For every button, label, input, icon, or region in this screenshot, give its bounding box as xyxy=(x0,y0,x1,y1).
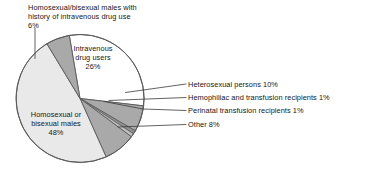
pie-chart-figure: Homosexual/bisexual males with history o… xyxy=(0,0,372,172)
pie-label-percent: 6% xyxy=(28,21,137,30)
pie-label-line-1: Intravenous xyxy=(55,44,131,53)
pie-label-intravenous-drug-users: Intravenous drug users 26% xyxy=(55,44,131,72)
pie-label-line-1: Homosexual or xyxy=(10,110,102,119)
pie-label-line-2: bisexual males xyxy=(10,119,102,128)
pie-label-hemophiliac-transfusion-recipients: Hemophiliac and transfusion recipients 1… xyxy=(188,93,330,102)
pie-label-homosexual-bisexual-males-ivdu-history: Homosexual/bisexual males with history o… xyxy=(28,3,137,31)
pie-label-other: Other 8% xyxy=(188,120,220,129)
pie-label-percent: 48% xyxy=(10,128,102,137)
pie-label-line-1: Homosexual/bisexual males with xyxy=(28,3,137,12)
pie-label-heterosexual-persons: Heterosexual persons 10% xyxy=(188,80,278,89)
pie-label-homosexual-bisexual-males: Homosexual or bisexual males 48% xyxy=(10,110,102,138)
pie-label-line-2: drug users xyxy=(55,53,131,62)
pie-label-percent: 26% xyxy=(55,62,131,71)
pie-label-line-2: history of intravenous drug use xyxy=(28,12,137,21)
pie-label-perinatal-transfusion-recipients: Perinatal transfusion recipients 1% xyxy=(188,106,304,115)
